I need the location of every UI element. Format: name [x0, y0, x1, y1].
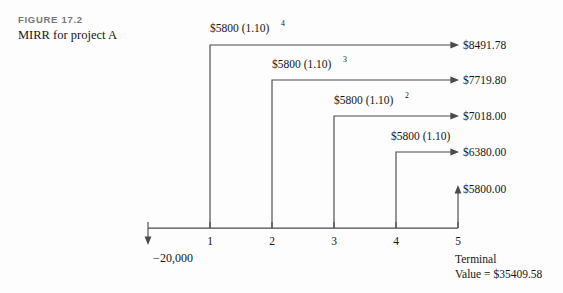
tick-label-1: 1 [207, 235, 213, 247]
future-value-period-5: $5800.00 [463, 183, 506, 195]
terminal-value-line2: Value = $35409.58 [455, 268, 543, 280]
flow-compound-label-period-3: $5800 (1.10) [334, 94, 394, 107]
flow-compound-exponent-period-1: 4 [281, 19, 285, 28]
flow-compound-exponent-period-3: 2 [405, 91, 409, 100]
flow-compound-label-period-2: $5800 (1.10) [272, 58, 332, 71]
flow-arrowhead-period-4 [450, 149, 459, 156]
flow-compound-label-period-1: $5800 (1.10) [210, 22, 270, 35]
initial-outflow-arrowhead [145, 236, 152, 245]
flow-arrowhead-period-1 [450, 42, 459, 49]
future-value-period-3: $7018.00 [463, 110, 506, 122]
flow-arrowhead-period-3 [450, 113, 459, 120]
flow-arrowhead-period-5 [455, 185, 462, 194]
future-value-period-2: $7719.80 [463, 74, 506, 86]
flow-connector-period-4 [396, 152, 452, 228]
flow-compound-exponent-period-2: 3 [343, 55, 347, 64]
tick-label-2: 2 [269, 235, 275, 247]
tick-label-4: 4 [393, 235, 399, 247]
initial-outflow-label: −20,000 [153, 251, 193, 265]
tick-label-5: 5 [455, 235, 461, 247]
flow-arrowhead-period-2 [450, 77, 459, 84]
future-value-period-1: $8491.78 [463, 39, 506, 51]
figure-page: FIGURE 17.2 MIRR for project A 1 2 3 4 5… [0, 0, 563, 293]
flow-compound-label-period-4: $5800 (1.10) [391, 130, 451, 143]
future-value-period-4: $6380.00 [463, 146, 506, 158]
terminal-value-line1: Terminal [455, 253, 496, 265]
tick-label-3: 3 [331, 235, 337, 247]
mirr-timeline-diagram: 1 2 3 4 5 −20,000 $5800 (1.10) 4 $8491.7… [0, 0, 563, 293]
